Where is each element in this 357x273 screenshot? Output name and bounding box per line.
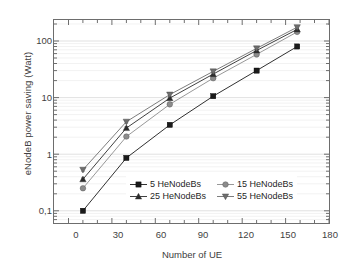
x-tick-label-60: 60	[143, 229, 179, 240]
y-tick-label-0.1: 0,1	[12, 205, 52, 216]
triangle-up-marker-icon	[130, 192, 147, 201]
y-tick-label-10: 10	[12, 92, 52, 103]
circle-marker-icon	[217, 180, 234, 189]
legend-label: 55 HeNodeBs	[237, 191, 293, 202]
chart-figure: eNodeB power saving (Watt) 100 10 1 0,1 …	[0, 0, 357, 273]
x-tick-label-150: 150	[270, 229, 306, 240]
legend-label: 25 HeNodeBs	[150, 191, 206, 202]
legend-item-55: 55 HeNodeBs	[217, 191, 293, 202]
y-tick-label-1: 1	[12, 149, 52, 160]
x-tick-label-0: 0	[58, 229, 94, 240]
x-tick-label-120: 120	[228, 229, 264, 240]
y-tick-label-100: 100	[12, 35, 52, 46]
x-axis-title: Number of UE	[53, 249, 331, 260]
x-tick-label-90: 90	[185, 229, 221, 240]
legend-label: 5 HeNodeBs	[150, 179, 201, 190]
x-tick-label-180: 180	[312, 229, 348, 240]
legend-item-25: 25 HeNodeBs	[130, 191, 206, 202]
square-marker-icon	[130, 180, 147, 189]
legend-item-15: 15 HeNodeBs	[217, 179, 293, 190]
legend-label: 15 HeNodeBs	[237, 179, 293, 190]
legend-item-5: 5 HeNodeBs	[130, 179, 206, 190]
triangle-down-marker-icon	[217, 192, 234, 201]
chart-legend: 5 HeNodeBs 15 HeNodeBs 25 HeNodeBs 55 He…	[126, 176, 297, 205]
x-tick-label-30: 30	[100, 229, 136, 240]
